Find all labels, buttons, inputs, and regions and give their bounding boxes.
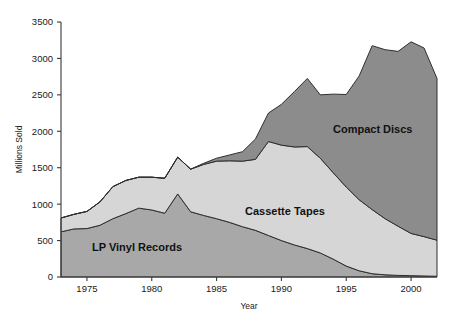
x-tick-label: 1980 bbox=[141, 283, 162, 294]
x-axis-title: Year bbox=[240, 301, 257, 311]
y-tick-label: 2500 bbox=[32, 89, 53, 100]
y-tick-label: 2000 bbox=[32, 126, 53, 137]
x-tick-label: 1995 bbox=[336, 283, 357, 294]
cassette-tapes-label: Cassette Tapes bbox=[245, 205, 325, 217]
x-tick-label: 1975 bbox=[76, 283, 97, 294]
y-tick-label: 3000 bbox=[32, 53, 53, 64]
y-tick-label: 500 bbox=[37, 235, 53, 246]
y-tick-label: 3500 bbox=[32, 16, 53, 27]
y-tick-label: 1500 bbox=[32, 162, 53, 173]
stacked-area-chart: 0500100015002000250030003500 19751980198… bbox=[0, 0, 454, 319]
x-tick-label: 1985 bbox=[206, 283, 227, 294]
y-tick-label: 1000 bbox=[32, 199, 53, 210]
chart-container: 0500100015002000250030003500 19751980198… bbox=[0, 0, 454, 319]
x-tick-label: 1990 bbox=[271, 283, 292, 294]
x-tick-label: 2000 bbox=[400, 283, 421, 294]
y-tick-label: 0 bbox=[48, 271, 53, 282]
y-axis-title: Millions Sold bbox=[14, 125, 24, 173]
lp-vinyl-records-label: LP Vinyl Records bbox=[92, 241, 182, 253]
compact-discs-label: Compact Discs bbox=[333, 123, 412, 135]
